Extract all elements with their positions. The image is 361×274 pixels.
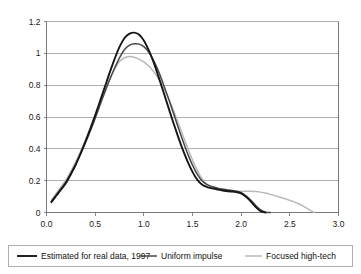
series-line bbox=[51, 56, 314, 212]
gridlines bbox=[47, 22, 339, 181]
y-tick-label: 0.6 bbox=[29, 112, 41, 122]
y-tick-label: 0.8 bbox=[29, 80, 41, 90]
x-tick-label: 2.5 bbox=[284, 219, 296, 229]
legend-label: Focused high-tech bbox=[266, 251, 336, 261]
data-series bbox=[51, 33, 314, 213]
x-tick-label: 1.0 bbox=[138, 219, 150, 229]
chart-legend: Estimated for real data, 1997Uniform imp… bbox=[9, 246, 353, 267]
y-tick-label: 0.2 bbox=[29, 176, 41, 186]
legend-label: Uniform impulse bbox=[161, 251, 223, 261]
series-line bbox=[51, 33, 265, 213]
x-tick-label: 3.0 bbox=[333, 219, 345, 229]
x-tick-label: 2.0 bbox=[235, 219, 247, 229]
tick-marks bbox=[44, 22, 339, 216]
legend-label: Estimated for real data, 1997 bbox=[41, 251, 150, 261]
y-tick-label: 1 bbox=[36, 48, 41, 58]
y-tick-label: 0.4 bbox=[29, 144, 41, 154]
x-tick-label: 0.0 bbox=[41, 219, 53, 229]
y-tick-label: 0 bbox=[36, 208, 41, 218]
line-chart: 00.20.40.60.811.2 0.00.51.01.52.02.53.0 … bbox=[0, 0, 361, 274]
chart-container: 00.20.40.60.811.2 0.00.51.01.52.02.53.0 … bbox=[0, 0, 361, 274]
y-axis-tick-labels: 00.20.40.60.811.2 bbox=[29, 17, 41, 218]
series-line bbox=[51, 44, 270, 213]
x-tick-label: 0.5 bbox=[89, 219, 101, 229]
x-axis-tick-labels: 0.00.51.01.52.02.53.0 bbox=[41, 219, 345, 229]
y-tick-label: 1.2 bbox=[29, 17, 41, 27]
x-tick-label: 1.5 bbox=[187, 219, 199, 229]
